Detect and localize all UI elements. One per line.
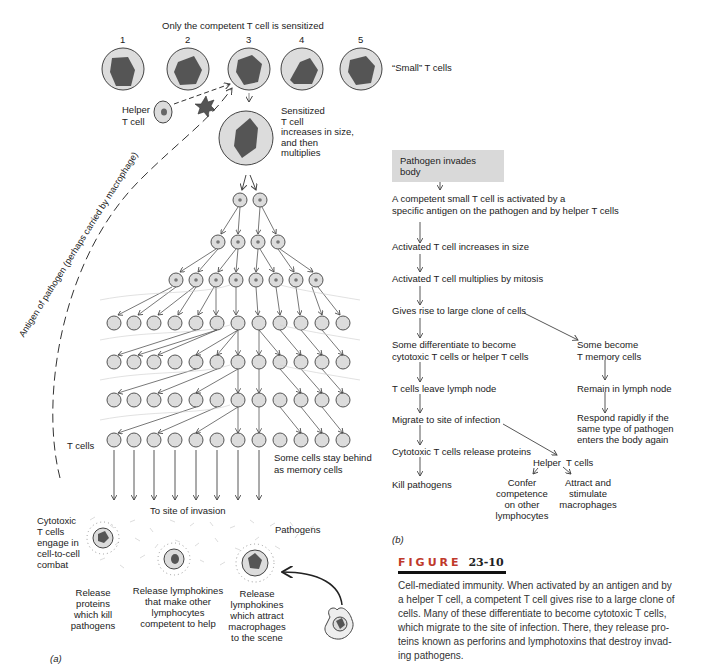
memory-cells-label: Some cells stay behind as memory cells xyxy=(274,452,372,476)
panel-b-label: (b) xyxy=(392,534,404,546)
flow-step-1: A competent small T cell is activated by… xyxy=(392,193,619,217)
cell-number-4: 4 xyxy=(299,34,304,46)
memory-branch-2: Remain in lymph node xyxy=(577,383,672,395)
figure-title-rule xyxy=(398,571,506,574)
cell-number-5: 5 xyxy=(358,34,363,46)
t-cells-label: T cells xyxy=(67,440,94,452)
pathogen-invades-box: Pathogen invades body xyxy=(392,150,504,182)
flow-step-7: Migrate to site of infection xyxy=(392,414,500,426)
pathogens-label: Pathogens xyxy=(275,524,320,536)
flow-step-3: Activated T cell multiplies by mitosis xyxy=(392,273,543,285)
flow-step-4: Gives rise to large clone of cells xyxy=(392,305,526,317)
cell-number-1: 1 xyxy=(120,34,125,46)
figure-title: FIGURE 23-10 xyxy=(398,556,504,569)
small-t-cells-label: “Small” T cells xyxy=(392,62,452,74)
cytotoxic-combat-label: Cytotoxic T cells engage in cell-to-cell… xyxy=(37,515,80,570)
release-proteins-label: Release proteins which kill pathogens xyxy=(58,587,128,631)
confer-competence-label: Confer competence on other lymphocytes xyxy=(492,477,552,521)
release-lymphokines-attract-label: Release lymphokines which attract macrop… xyxy=(222,588,292,643)
figure-caption: Cell-mediated immunity. When activated b… xyxy=(398,579,708,663)
memory-branch-1: Some become T memory cells xyxy=(577,339,641,363)
flow-step-9: Kill pathogens xyxy=(392,479,452,491)
helper-t-cells-label: Helper T cells xyxy=(533,457,593,469)
sensitized-label: Sensitized T cell increases in size, and… xyxy=(281,106,354,159)
killer-cells xyxy=(87,522,274,582)
flow-step-2: Activated T cell increases in size xyxy=(392,241,529,253)
cell-number-3: 3 xyxy=(246,34,251,46)
clone-cells xyxy=(169,193,323,287)
panel-a-label: (a) xyxy=(50,653,62,665)
attract-macrophages-label: Attract and stimulate macrophages xyxy=(558,477,618,510)
cell-number-2: 2 xyxy=(185,34,190,46)
flow-step-5: Some differentiate to become cytotoxic T… xyxy=(392,339,529,363)
flow-step-6: T cells leave lymph node xyxy=(392,383,496,395)
site-of-invasion-label: To site of invasion xyxy=(150,505,226,517)
release-lymphokines-help-label: Release lymphokines that make other lymp… xyxy=(128,585,228,629)
flow-step-8: Cytotoxic T cells release proteins xyxy=(392,446,531,458)
panel-a-diagram xyxy=(0,0,712,672)
small-t-cells-row xyxy=(102,48,382,90)
sensitized-only-competent-label: Only the competent T cell is sensitized xyxy=(162,20,324,32)
memory-branch-3: Respond rapidly if the same type of path… xyxy=(577,412,674,445)
